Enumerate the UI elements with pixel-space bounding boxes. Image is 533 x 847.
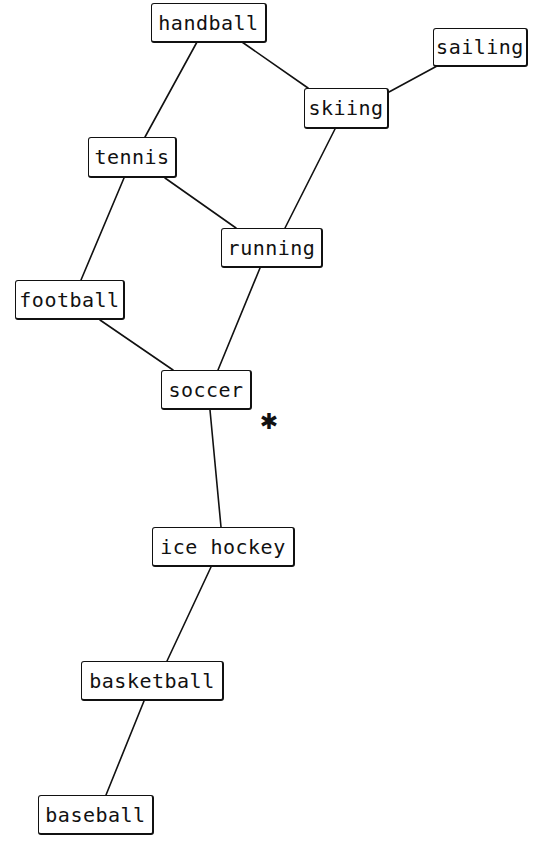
edge-running-soccer [218,268,260,370]
edge-handball-skiing [242,42,308,88]
node-ice-hockey[interactable]: ice hockey [152,527,295,567]
edge-ice_hockey-basketball [167,567,211,661]
node-soccer[interactable]: soccer [161,370,252,410]
edge-soccer-ice_hockey [210,410,221,527]
node-tennis[interactable]: tennis [88,137,177,178]
edge-basketball-baseball [106,701,144,795]
node-baseball[interactable]: baseball [38,795,154,835]
node-football[interactable]: football [15,280,125,320]
node-sailing[interactable]: sailing [433,28,528,67]
edge-tennis-football [81,178,124,280]
node-basketball[interactable]: basketball [81,661,224,701]
edge-skiing-running [285,129,335,228]
asterisk-cursor-icon: ✱ [260,411,278,433]
edge-sailing-skiing [389,66,437,92]
node-handball[interactable]: handball [151,3,267,43]
node-running[interactable]: running [221,228,323,268]
edge-football-soccer [100,320,173,370]
node-skiing[interactable]: skiing [304,88,389,129]
edge-tennis-running [165,178,236,228]
edge-handball-tennis [145,42,197,137]
graph-canvas[interactable]: handballsailingskiingtennisrunningfootba… [0,0,533,847]
